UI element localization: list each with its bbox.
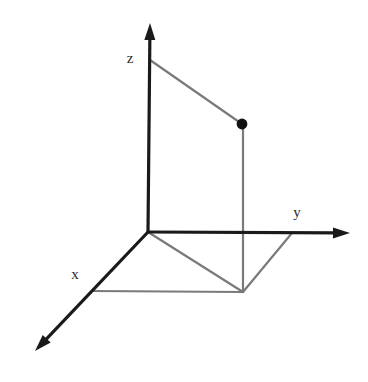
z-axis [144, 23, 155, 232]
diagram-canvas [0, 0, 368, 382]
y-projection-line [243, 233, 292, 292]
axis-group [35, 23, 350, 351]
y-axis-arrowhead [333, 227, 350, 238]
coordinate-system-diagram: z y x [0, 0, 368, 382]
z-axis-line [148, 35, 150, 232]
origin-to-foot-line [148, 232, 243, 292]
y-axis-label: y [293, 205, 301, 220]
plotted-point [237, 119, 248, 130]
z-axis-arrowhead [144, 23, 155, 40]
z-axis-label: z [127, 51, 134, 66]
y-axis [148, 227, 350, 238]
y-axis-line [148, 232, 338, 233]
z-height-line [150, 60, 242, 124]
x-projection-line [92, 291, 243, 292]
x-axis-label: x [71, 267, 79, 282]
x-axis-line [43, 232, 148, 342]
